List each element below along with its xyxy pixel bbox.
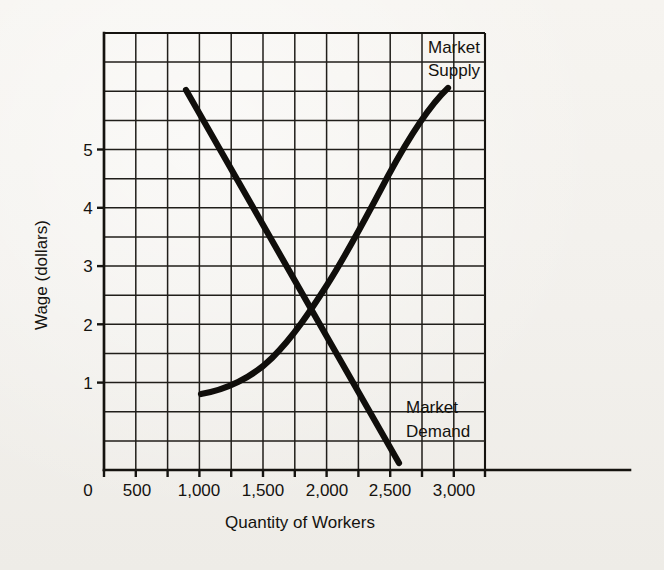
- x-tick-label-1000: 1,000: [178, 481, 221, 500]
- y-tick-label-4: 4: [83, 199, 92, 218]
- market-supply-label-line2: Supply: [428, 61, 480, 80]
- x-tick-label-500: 500: [123, 481, 151, 500]
- market-demand-label-line1: Market: [406, 398, 458, 417]
- market-demand-curve: [186, 90, 399, 463]
- y-tick-label-3: 3: [83, 257, 92, 276]
- market-demand-label-line2: Demand: [406, 422, 470, 441]
- supply-and-demand-chart: 5 4 3 2 1 0 500 1,000 1,500 2,000 2,500 …: [0, 0, 664, 570]
- y-tick-label-1: 1: [83, 374, 92, 393]
- x-tick-label-0: 0: [83, 481, 92, 500]
- x-tick-label-3000: 3,000: [433, 481, 476, 500]
- market-supply-curve: [201, 88, 448, 394]
- x-axis-tick-labels: 0 500 1,000 1,500 2,000 2,500 3,000: [83, 481, 475, 500]
- x-tick-label-2500: 2,500: [369, 481, 412, 500]
- y-tick-label-2: 2: [83, 316, 92, 335]
- x-axis-title: Quantity of Workers: [225, 513, 375, 532]
- y-axis-title: Wage (dollars): [32, 220, 51, 330]
- chart-page: 5 4 3 2 1 0 500 1,000 1,500 2,000 2,500 …: [0, 0, 664, 570]
- x-tick-label-2000: 2,000: [306, 481, 349, 500]
- chart-canvas: 5 4 3 2 1 0 500 1,000 1,500 2,000 2,500 …: [0, 0, 664, 570]
- x-tick-label-1500: 1,500: [242, 481, 285, 500]
- market-demand-label: Market Demand: [406, 398, 470, 441]
- market-supply-label-line1: Market: [428, 38, 480, 57]
- y-axis-tick-labels: 5 4 3 2 1: [83, 141, 92, 393]
- y-tick-label-5: 5: [83, 141, 92, 160]
